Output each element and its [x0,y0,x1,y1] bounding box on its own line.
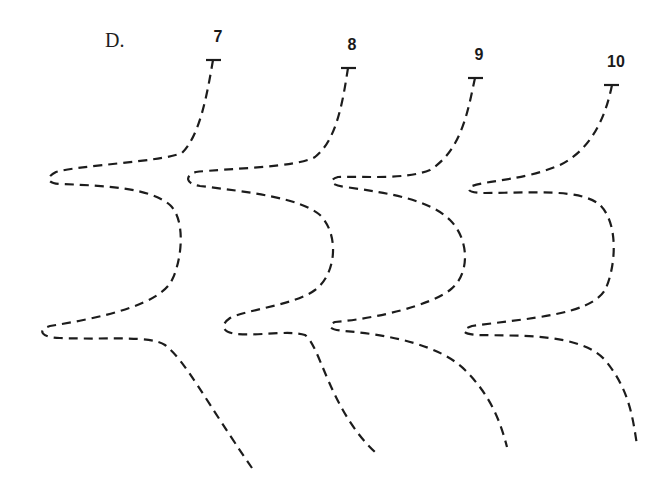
curve-7 [42,60,252,468]
curve-9 [330,78,507,447]
dashed-curve-9 [330,78,507,447]
dashed-curve-10 [464,85,637,445]
reaction-coordinate-diagram-panel-d: D. 7 8 9 10 [0,0,659,490]
dashed-curve-8 [188,68,375,452]
curves-canvas [0,0,659,490]
dashed-curve-7 [42,60,252,468]
curve-8 [188,68,375,452]
curve-10 [464,85,637,445]
